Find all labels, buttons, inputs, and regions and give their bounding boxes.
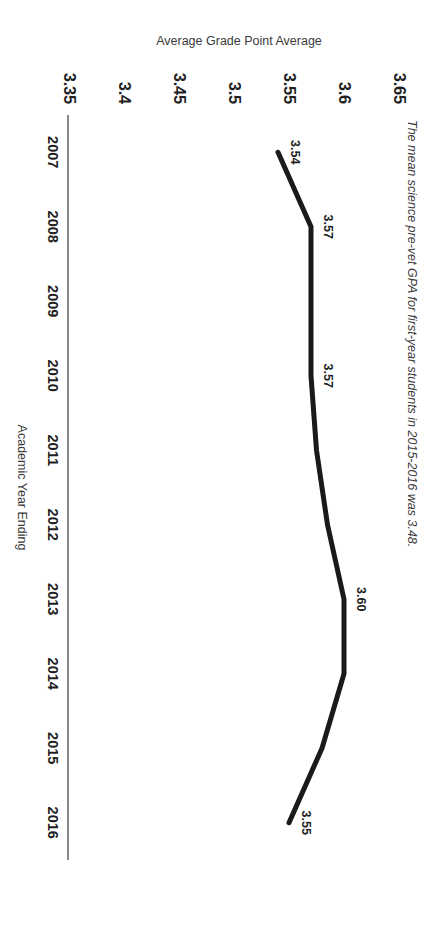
y-axis-tick-3-6: 3.6: [335, 82, 354, 104]
x-axis-title: Academic Year Ending: [15, 115, 29, 860]
data-label-2013: 3.60: [354, 587, 368, 611]
y-axis-tick-3-45: 3.45: [170, 73, 189, 104]
plot-area: 3.543.573.573.603.55: [69, 115, 399, 860]
x-axis-tick-2014: 2014: [45, 658, 61, 690]
y-axis-tick-3-65: 3.65: [390, 73, 409, 104]
y-axis-tick-3-35: 3.35: [60, 73, 79, 104]
data-label-2016: 3.55: [299, 811, 313, 835]
y-axis-title: Average Grade Point Average: [134, 34, 344, 48]
data-label-2010: 3.57: [321, 364, 335, 388]
x-axis-tick-2009: 2009: [45, 285, 61, 317]
y-axis-tick-3-5: 3.5: [225, 82, 244, 104]
gpa-line-chart: The mean science pre-vet GPA for first-y…: [0, 0, 421, 929]
series-polyline: [278, 152, 344, 823]
gpa-series-line: [69, 115, 399, 860]
data-label-2007: 3.54: [288, 140, 302, 164]
y-axis-tick-group: 3.353.43.453.53.553.63.65: [69, 0, 399, 104]
y-axis-tick-3-55: 3.55: [280, 73, 299, 104]
rotated-figure-container: The mean science pre-vet GPA for first-y…: [0, 0, 421, 929]
x-axis-tick-2011: 2011: [45, 435, 61, 466]
x-axis-tick-2012: 2012: [45, 509, 61, 541]
data-label-2008: 3.57: [321, 215, 335, 239]
x-axis-tick-2016: 2016: [45, 807, 61, 839]
chart-annotation: The mean science pre-vet GPA for first-y…: [405, 120, 419, 547]
x-axis-tick-2013: 2013: [45, 583, 61, 615]
x-axis-tick-2010: 2010: [45, 360, 61, 392]
x-axis-tick-2008: 2008: [45, 211, 61, 243]
y-axis-tick-3-4: 3.4: [115, 82, 134, 104]
x-axis-tick-2007: 2007: [45, 136, 61, 168]
x-axis-tick-2015: 2015: [45, 732, 61, 764]
